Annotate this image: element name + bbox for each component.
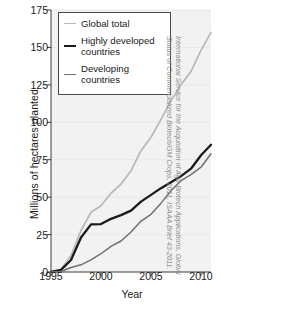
series-line xyxy=(51,145,211,272)
y-tick-label: 150 xyxy=(16,42,48,52)
legend-item-developing: Developing countries xyxy=(64,63,166,85)
legend-label-highly-developed: Highly developed countries xyxy=(81,35,166,57)
y-tick-label: 125 xyxy=(16,80,48,90)
y-axis-ticks: 0255075100125150175 xyxy=(14,0,48,311)
legend-label-global-total: Global total xyxy=(81,18,130,29)
y-tick-label: 75 xyxy=(16,155,48,165)
y-tick-label: 100 xyxy=(16,117,48,127)
y-tick-label: 175 xyxy=(16,5,48,15)
source-credit: International Service for the Acquisitio… xyxy=(165,36,183,280)
chart-legend: Global total Highly developed countries … xyxy=(58,12,171,95)
y-tick-label: 50 xyxy=(16,192,48,202)
legend-swatch-highly-developed xyxy=(64,45,76,47)
chart-figure: Millions of hectares planted Year 025507… xyxy=(0,0,282,311)
x-tick-label: 2010 xyxy=(177,270,225,282)
legend-item-global-total: Global total xyxy=(64,18,166,29)
legend-swatch-global-total xyxy=(64,23,76,24)
x-tick-label: 2000 xyxy=(77,270,125,282)
legend-swatch-developing xyxy=(64,74,76,75)
x-tick-label: 1995 xyxy=(27,270,75,282)
legend-label-developing: Developing countries xyxy=(81,63,166,85)
legend-item-highly-developed: Highly developed countries xyxy=(64,35,166,57)
y-tick-label: 25 xyxy=(16,230,48,240)
x-axis-title: Year xyxy=(52,288,212,300)
